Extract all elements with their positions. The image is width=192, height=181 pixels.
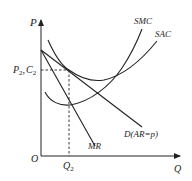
sac-curve <box>48 40 157 81</box>
smc-label: SMC <box>134 16 153 26</box>
demand-label: D(AR=p) <box>123 129 158 139</box>
origin-label: O <box>31 153 38 164</box>
cost-revenue-diagram: P O Q SMC SAC D(AR=p) MR P2,C2 Q2 <box>0 0 192 181</box>
demand-curve <box>41 50 142 127</box>
mr-label: MR <box>87 141 101 151</box>
x-axis-label: Q <box>174 163 182 174</box>
quantity-label: Q2 <box>63 160 74 173</box>
price-cost-label: P2,C2 <box>12 64 37 77</box>
y-axis-label: P <box>29 16 37 28</box>
smc-curve <box>45 29 142 105</box>
sac-label: SAC <box>155 29 172 39</box>
